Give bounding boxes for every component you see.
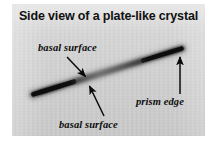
label-prism-edge: prism edge	[136, 96, 184, 107]
crystal-body	[33, 49, 182, 95]
photograph-plate: Side view of a plate-like crystal	[12, 4, 205, 136]
label-basal-surface-bottom: basal surface	[59, 119, 118, 130]
arrow-basal-surface-top	[67, 57, 86, 77]
annotation-overlay	[12, 4, 205, 136]
arrow-basal-surface-bottom	[90, 86, 105, 116]
figure-root: Side view of a plate-like crystal	[0, 0, 212, 148]
label-basal-surface-top: basal surface	[38, 42, 97, 53]
